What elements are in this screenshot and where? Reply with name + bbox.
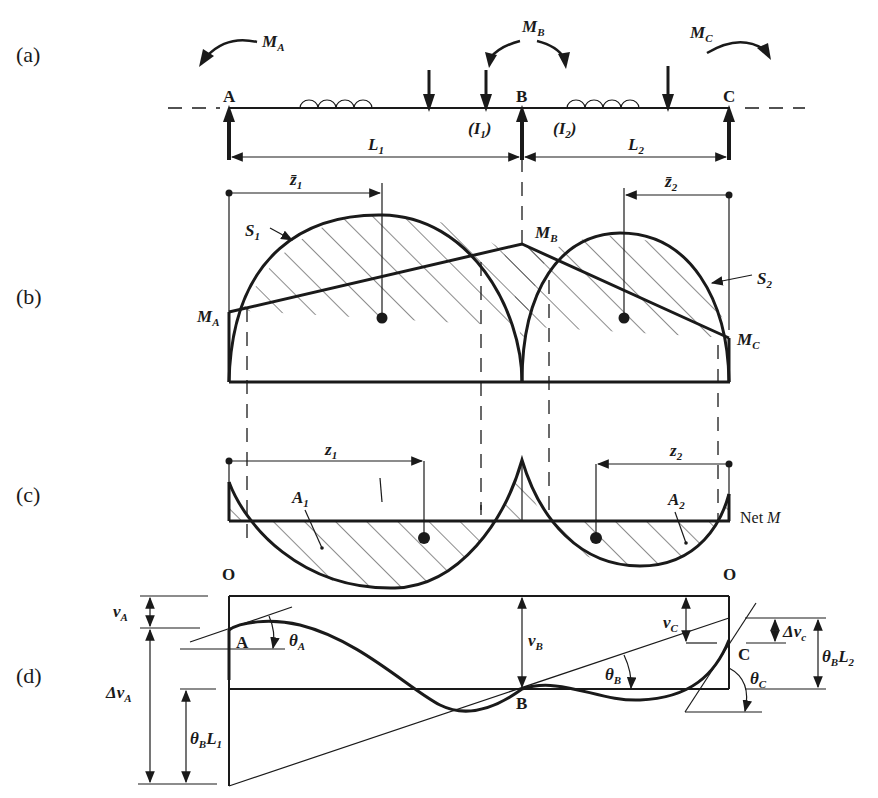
point-load-3 — [662, 66, 674, 112]
tick-mark — [380, 478, 382, 502]
label-net-m: Net M — [740, 509, 782, 526]
label-va: vA — [113, 602, 128, 623]
support-label-c: C — [723, 87, 735, 106]
label-point-c: C — [738, 645, 750, 664]
inertia-label-i1: (I1) — [468, 119, 491, 140]
inertia-label-i2: (I2) — [553, 119, 576, 140]
centroid-dot-net-1 — [418, 532, 430, 544]
support-label-b: B — [516, 87, 527, 106]
deflection-panel-d: O O A θA vA ΔvA θBL1 vB B — [105, 565, 855, 786]
panel-label-c: (c) — [16, 482, 40, 507]
label-point-a: A — [236, 633, 249, 652]
label-thetab-l2: θBL2 — [822, 647, 855, 668]
moment-arrow-mb-left — [485, 41, 520, 68]
continuous-beam-diagram: (a) (b) (c) (d) A B C — [0, 0, 878, 798]
panel-label-d: (d) — [16, 663, 42, 688]
angle-arc-theta-b — [624, 655, 631, 688]
label-z1: z1 — [324, 440, 337, 461]
moment-arrow-mc — [707, 42, 771, 60]
label-o-left: O — [222, 565, 235, 584]
centroid-dot-span1 — [377, 313, 388, 324]
label-vc: vC — [663, 613, 679, 634]
support-arrow-a — [223, 105, 235, 160]
leader-dot-a2 — [684, 541, 688, 545]
beam-panel-a: A B C MA MB — [168, 17, 805, 160]
label-a2: A2 — [667, 490, 685, 511]
support-arrow-c — [723, 105, 735, 160]
leader-s1 — [270, 228, 292, 240]
net-moment-panel-c: z1 z2 A1 A2 Net M — [226, 440, 783, 588]
support-label-a: A — [223, 87, 236, 106]
span-label-l2: L2 — [627, 135, 644, 156]
deflected-shape — [229, 621, 729, 711]
moment-arrow-mb-right — [537, 41, 570, 69]
panel-label-b: (b) — [16, 284, 42, 309]
label-thetab-l1: θBL1 — [190, 729, 222, 750]
distributed-load-span2 — [567, 100, 639, 108]
moment-label-ma: MA — [261, 32, 284, 53]
label-z1bar: z̄1 — [289, 170, 302, 191]
centroid-dot-net-2 — [590, 532, 602, 544]
label-mc: MC — [736, 330, 760, 351]
centroid-dot-span2 — [619, 313, 630, 324]
label-theta-a: θA — [289, 631, 305, 652]
leader-dot-a1 — [320, 546, 324, 550]
distributed-load-span1 — [300, 100, 372, 108]
leader-s2 — [712, 275, 752, 283]
hatched-net-span2 — [545, 521, 719, 566]
label-theta-b: θB — [605, 665, 621, 686]
moment-label-mb: MB — [521, 17, 544, 38]
support-arrow-b — [516, 105, 528, 160]
point-load-2 — [480, 70, 492, 112]
label-point-b: B — [516, 694, 527, 713]
label-s1: S1 — [245, 221, 260, 242]
span-label-l1: L1 — [367, 135, 384, 156]
label-s2: S2 — [757, 269, 772, 290]
label-z2: z2 — [669, 441, 683, 462]
label-z2bar: z̄2 — [664, 172, 678, 193]
angle-arc-theta-c — [729, 668, 747, 711]
moment-arrow-ma — [199, 40, 257, 67]
label-ma: MA — [196, 307, 219, 328]
moment-diagram-panel-b: z̄1 z̄2 S1 S2 MA MB MC — [196, 158, 772, 540]
panel-label-a: (a) — [16, 42, 40, 67]
moment-label-mc: MC — [689, 23, 713, 44]
label-a1: A1 — [291, 488, 309, 509]
label-mb: MB — [534, 223, 557, 244]
label-vb: vB — [528, 631, 543, 652]
point-load-1 — [423, 70, 435, 112]
label-o-right: O — [723, 565, 736, 584]
label-delta-vc: Δvc — [782, 622, 806, 643]
label-theta-c: θC — [750, 669, 767, 690]
label-delta-va: ΔvA — [105, 683, 132, 704]
